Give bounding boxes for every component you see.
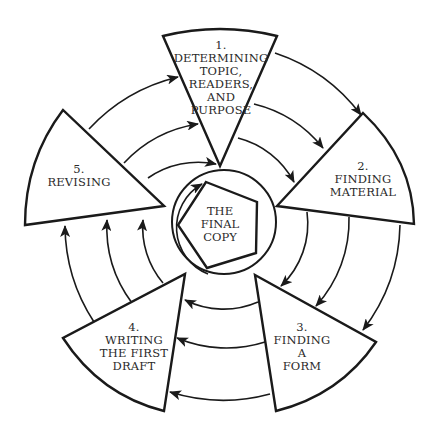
stage-4-number: 4. bbox=[128, 320, 139, 334]
stage-2-line-2: MATERIAL bbox=[330, 185, 396, 199]
final-copy-line-1: THE bbox=[207, 204, 233, 218]
stage-5-line-1: REVISING bbox=[47, 175, 110, 189]
stage-4-line-1: WRITING bbox=[105, 333, 163, 347]
stage-4-wedge: 4. WRITING THE FIRST DRAFT bbox=[63, 274, 185, 411]
stage-1-number: 1. bbox=[215, 38, 226, 52]
writing-process-diagram: 1. DETERMINING TOPIC, READERS, AND PURPO… bbox=[0, 0, 439, 434]
stage-3-number: 3. bbox=[296, 320, 307, 334]
stage-4-line-2: THE FIRST bbox=[100, 346, 168, 360]
stage-3-line-1: FINDING bbox=[274, 333, 331, 347]
stage-5-number: 5. bbox=[73, 162, 84, 176]
stage-3-line-2: A bbox=[297, 346, 307, 360]
stage-1-line-5: PURPOSE bbox=[191, 103, 252, 117]
stage-2-number: 2. bbox=[357, 159, 368, 173]
stage-2-line-1: FINDING bbox=[335, 172, 392, 186]
flow-arrows-3-to-4 bbox=[170, 300, 270, 400]
stage-1-line-3: READERS, bbox=[189, 77, 253, 91]
final-copy-line-2: FINAL bbox=[201, 217, 240, 231]
stage-3-line-3: FORM bbox=[283, 359, 322, 373]
final-copy-line-3: COPY bbox=[203, 230, 237, 244]
stage-1-line-2: TOPIC, bbox=[200, 64, 243, 78]
stage-3-wedge: 3. FINDING A FORM bbox=[255, 275, 376, 411]
stage-1-line-1: DETERMINING bbox=[174, 51, 269, 65]
stage-4-line-3: DRAFT bbox=[113, 359, 156, 373]
stage-1-wedge: 1. DETERMINING TOPIC, READERS, AND PURPO… bbox=[163, 29, 277, 166]
stage-2-wedge: 2. FINDING MATERIAL bbox=[277, 113, 414, 224]
stage-1-line-4: AND bbox=[206, 90, 235, 104]
svg-text:1.: 1. bbox=[215, 38, 226, 52]
stage-5-wedge: 5. REVISING bbox=[25, 110, 164, 225]
